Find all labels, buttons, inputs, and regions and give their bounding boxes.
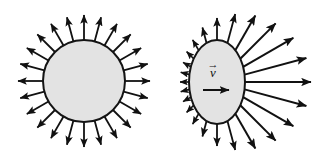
figure-root: v → bbox=[0, 0, 321, 168]
stationary-source-panel bbox=[18, 15, 150, 147]
velocity-vector-accent-icon: → bbox=[208, 58, 219, 70]
radial-emission-diagram: v → bbox=[0, 0, 321, 168]
stationary-source-body bbox=[43, 40, 125, 122]
moving-source-body bbox=[189, 40, 245, 124]
